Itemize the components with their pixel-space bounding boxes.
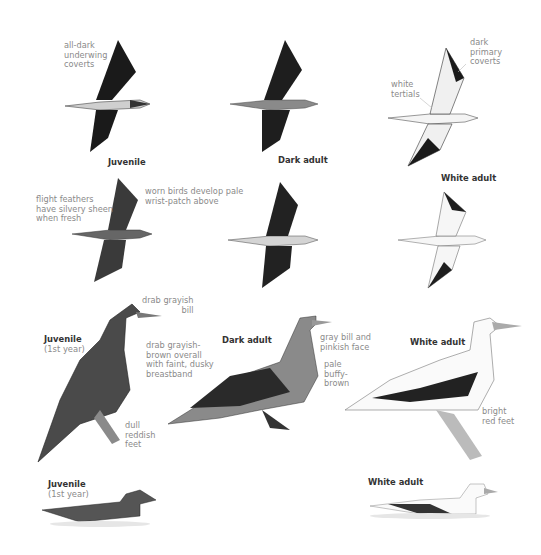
note-drab-grayish-brown: drab grayish- brown overall with faint, … xyxy=(146,341,214,379)
title-dark-adult-flight: Dark adult xyxy=(278,155,328,165)
white-adult-flight-illustration xyxy=(388,48,478,166)
note-pale-buffy-brown: pale buffy- brown xyxy=(324,360,349,389)
field-guide-plate: all-dark underwing coverts Juvenile Dark… xyxy=(0,0,541,555)
title-dark-adult-perched: Dark adult xyxy=(222,335,272,345)
title-white-adult-perched: White adult xyxy=(410,337,465,347)
note-drab-grayish-bill: drab grayish bill xyxy=(142,296,194,315)
note-flight-feathers-sheen: flight feathers have silvery sheen when … xyxy=(36,195,113,224)
title-juvenile-swimming: Juvenile(1st year) xyxy=(48,479,89,499)
note-white-tertials: white tertials xyxy=(391,80,420,99)
note-all-dark-underwing: all-dark underwing coverts xyxy=(64,41,107,70)
white-adult-swimming-illustration xyxy=(370,484,498,519)
note-gray-bill-pinkish-face: gray bill and pinkish face xyxy=(320,333,371,352)
white-adult-flight-topside-illustration xyxy=(398,192,486,288)
note-bright-red-feet: bright red feet xyxy=(482,407,514,426)
title-white-adult-flight: White adult xyxy=(441,173,496,183)
dark-adult-flight-illustration xyxy=(230,40,318,152)
bird-illustrations xyxy=(0,0,541,555)
title-white-adult-swimming: White adult xyxy=(368,477,423,487)
note-dull-reddish-feet: dull reddish feet xyxy=(125,421,155,450)
title-juvenile-perched: Juvenile(1st year) xyxy=(44,334,85,354)
note-dark-primary-coverts: dark primary coverts xyxy=(470,38,502,67)
note-worn-birds-wrist-patch: worn birds develop pale wrist-patch abov… xyxy=(145,187,243,206)
title-juvenile-flight: Juvenile xyxy=(108,157,146,167)
